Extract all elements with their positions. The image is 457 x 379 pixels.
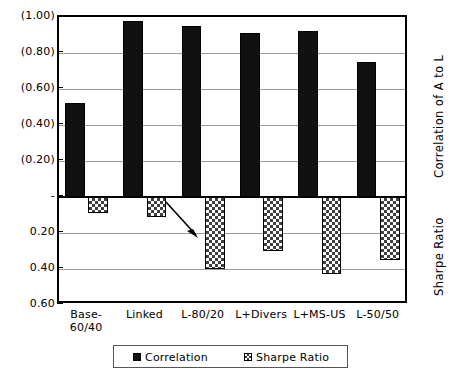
bar-correlation [65,103,85,197]
y-axis-tick-mark [57,159,63,160]
y-axis-title-sharpe-ratio: Sharpe Ratio [432,217,446,296]
y-axis-tick-mark [57,51,63,52]
y-axis-tick-mark [57,195,63,196]
bar-correlation [182,26,202,197]
bar-sharpe-ratio [147,197,167,217]
y-axis-tick-mark [57,267,63,268]
x-axis-label: L-50/50 [349,308,407,321]
bar-chart: (1.00)(0.80)(0.60)(0.40)(0.20)-0.200.400… [0,0,457,379]
y-axis-tick-label: (0.20) [3,154,55,165]
y-axis-tick-mark [57,87,63,88]
y-axis-tick-label: 0.60 [3,298,55,309]
y-axis-tick-label: 0.40 [3,262,55,273]
x-axis-label-line: 60/40 [57,321,115,334]
bar-correlation [298,31,318,197]
y-axis-tick-labels: (1.00)(0.80)(0.60)(0.40)(0.20)-0.200.400… [0,15,55,303]
y-axis-tick-label: (0.40) [3,118,55,129]
y-axis-tick-label: (0.80) [3,46,55,57]
y-axis-title-correlation: Correlation of A to L [432,55,446,178]
x-axis-label-line: L+MS-US [290,308,348,321]
bar-correlation [357,62,377,197]
x-axis-label-line: Base- [57,308,115,321]
x-axis-label-line: L-50/50 [349,308,407,321]
x-axis-label-line: L-80/20 [174,308,232,321]
legend-swatch-sharpe-ratio-icon [244,353,252,361]
gridline [59,161,405,162]
x-axis-label: L-80/20 [174,308,232,321]
y-axis-tick-mark [57,231,63,232]
y-axis-tick-label: - [3,190,55,201]
plot-area [57,15,407,303]
chart-legend: Correlation Sharpe Ratio [113,345,348,368]
y-axis-tick-label: 0.20 [3,226,55,237]
plot-inner [59,17,405,301]
x-axis-label-line: Linked [115,308,173,321]
x-axis-label: Linked [115,308,173,321]
legend-item-correlation: Correlation [133,350,208,364]
gridline [59,233,405,234]
gridline [59,53,405,54]
legend-label-sharpe-ratio: Sharpe Ratio [256,351,329,364]
y-axis-tick-mark [57,15,63,16]
gridline [59,125,405,126]
bar-sharpe-ratio [88,197,108,213]
legend-label-correlation: Correlation [145,351,208,364]
y-axis-tick-label: (1.00) [3,10,55,21]
bar-correlation [240,33,260,197]
y-axis-tick-label: (0.60) [3,82,55,93]
gridline [59,89,405,90]
x-axis-labels: Base-60/40LinkedL-80/20L+DiversL+MS-USL-… [57,308,407,348]
y-axis-tick-mark [57,123,63,124]
x-axis-label-line: L+Divers [232,308,290,321]
x-axis-label: L+Divers [232,308,290,321]
zero-axis-line [59,196,405,198]
x-axis-label: L+MS-US [290,308,348,321]
bar-sharpe-ratio [205,197,225,269]
bar-sharpe-ratio [380,197,400,260]
legend-item-sharpe-ratio: Sharpe Ratio [244,350,329,364]
legend-swatch-correlation-icon [133,353,141,361]
gridline [59,269,405,270]
x-axis-label: Base-60/40 [57,308,115,334]
bar-sharpe-ratio [322,197,342,274]
y-axis-tick-mark [57,303,63,304]
bar-correlation [123,21,143,197]
bar-sharpe-ratio [263,197,283,251]
